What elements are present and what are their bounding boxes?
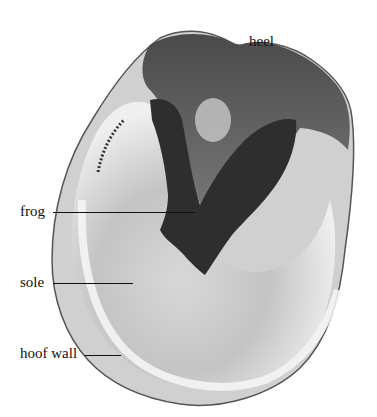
label-sole: sole: [20, 275, 44, 290]
heel-bulb-shape: [195, 98, 231, 142]
label-heel: heel: [249, 34, 274, 49]
label-frog: frog: [20, 204, 45, 219]
label-hoof-wall: hoof wall: [20, 346, 77, 361]
leader-line-hoof-wall: [85, 355, 121, 356]
hoof-diagram: heel frog sole hoof wall: [0, 0, 377, 417]
leader-line-sole: [53, 283, 133, 284]
leader-line-frog: [53, 212, 195, 213]
